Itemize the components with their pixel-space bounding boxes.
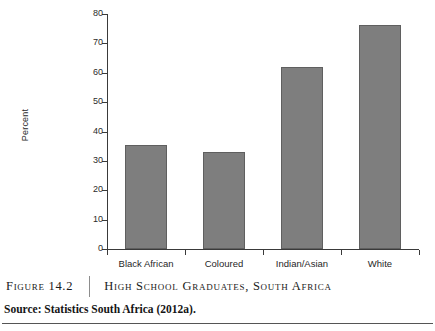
figure-chart: Percent 01020304050607080 Black AfricanC…	[0, 0, 435, 268]
y-tick-label: 30	[93, 155, 103, 165]
x-category-label: Black African	[119, 258, 174, 269]
figure-caption-block: Figure 14.2 High School Graduates, South…	[0, 271, 435, 331]
y-tick-label: 20	[93, 184, 103, 194]
y-axis-title: Percent	[20, 80, 30, 170]
bottom-rule	[2, 323, 433, 324]
caption-divider	[89, 276, 90, 297]
x-category-label: Coloured	[205, 258, 244, 269]
bar	[281, 67, 323, 249]
figure-caption-line: Figure 14.2 High School Graduates, South…	[6, 276, 332, 296]
figure-number: Figure 14.2	[6, 279, 73, 294]
bar	[203, 152, 245, 249]
y-tick-label: 40	[93, 126, 103, 136]
x-tick-mark	[107, 250, 108, 255]
bar	[125, 145, 167, 249]
x-category-label: White	[368, 258, 392, 269]
y-tick-label: 10	[93, 214, 103, 224]
source-note: Source: Statistics South Africa (2012a).	[4, 303, 196, 315]
y-tick-label: 50	[93, 96, 103, 106]
y-axis-line	[107, 14, 108, 250]
y-tick-label: 60	[93, 67, 103, 77]
y-tick-label: 80	[93, 8, 103, 18]
x-category-label: Indian/Asian	[276, 258, 328, 269]
x-tick-mark	[341, 250, 342, 255]
plot-area: 01020304050607080 Black AfricanColouredI…	[107, 14, 419, 250]
y-tick-label: 0	[98, 243, 103, 253]
x-tick-mark	[263, 250, 264, 255]
bar	[359, 25, 401, 249]
y-tick-label: 70	[93, 37, 103, 47]
x-tick-mark	[419, 250, 420, 255]
x-tick-mark	[185, 250, 186, 255]
figure-title: High School Graduates, South Africa	[104, 279, 332, 294]
